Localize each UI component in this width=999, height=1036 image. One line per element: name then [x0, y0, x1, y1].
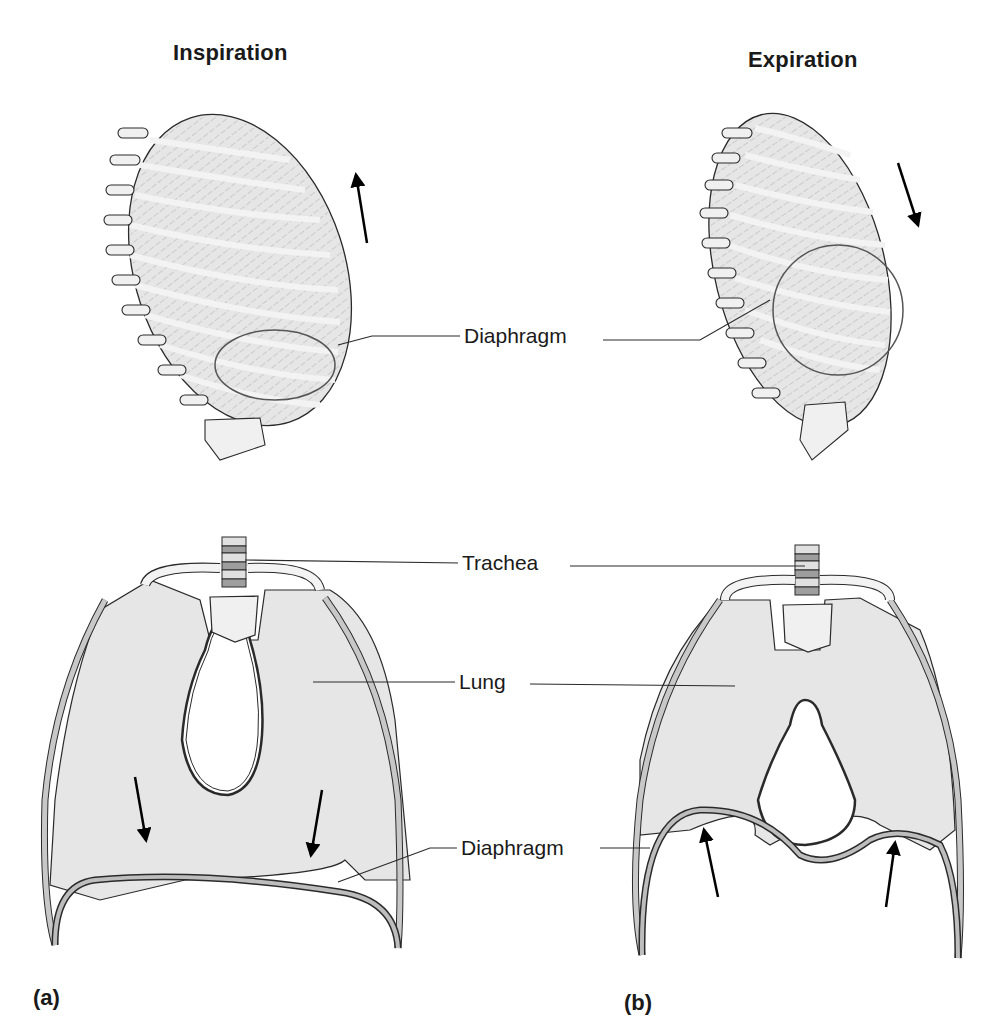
- label-diaphragm-lateral: Diaphragm: [460, 324, 571, 348]
- label-diaphragm-frontal: Diaphragm: [457, 836, 568, 860]
- label-lung: Lung: [455, 670, 510, 694]
- label-trachea: Trachea: [458, 551, 542, 575]
- arrow-up-left-icon: [704, 830, 718, 897]
- ribcage-lateral-inspiration: [91, 85, 390, 460]
- thorax-frontal-inspiration: [44, 537, 410, 948]
- arrow-down-icon: [898, 163, 918, 225]
- arrow-up-icon: [356, 175, 367, 243]
- arrow-up-right-icon: [886, 843, 895, 907]
- panel-letter-a: (a): [33, 985, 60, 1011]
- panel-letter-b: (b): [624, 990, 652, 1016]
- thorax-frontal-expiration: [635, 545, 960, 958]
- ribcage-lateral-expiration: [679, 94, 921, 460]
- respiration-diagram: [0, 0, 999, 1036]
